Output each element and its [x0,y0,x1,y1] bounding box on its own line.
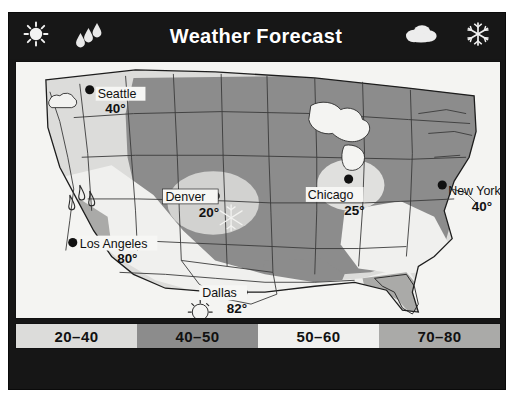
city-temp-chicago: 25° [344,203,364,218]
city-temp-newyork: 40° [472,199,492,214]
city-name-dallas: Dallas [202,286,237,300]
snowflake-icon [465,21,491,51]
header-left-icons [23,20,109,52]
raindrops-icon [75,20,109,52]
city-temp-dallas: 82° [227,301,247,316]
city-name-seattle: Seattle [98,87,137,101]
legend-band-50-60[interactable]: 50–60 [258,324,379,348]
city-temp-seattle: 40° [105,101,125,116]
legend-band-40-50[interactable]: 40–50 [137,324,258,348]
city-temp-losangeles: 80° [117,251,137,266]
header-right-icons [403,21,491,51]
weather-forecast-poster: Weather Forecast [8,12,506,390]
map-frame: Seattle 40° Denver 20° Chicago 25° [15,61,501,319]
city-name-newyork: New York [448,184,500,198]
city-name-chicago: Chicago [308,188,354,202]
cloud-icon [403,23,439,49]
temperature-legend: 20–40 40–50 50–60 70–80 [15,323,501,349]
city-name-losangeles: Los Angeles [80,237,148,251]
city-temp-denver: 20° [199,205,219,220]
header-bar: Weather Forecast [9,13,505,59]
legend-band-20-40[interactable]: 20–40 [16,324,137,348]
city-name-denver: Denver [165,190,205,204]
page-title: Weather Forecast [170,25,342,48]
sun-icon [23,21,49,51]
legend-band-70-80[interactable]: 70–80 [379,324,500,348]
weather-map[interactable]: Seattle 40° Denver 20° Chicago 25° [16,62,500,318]
